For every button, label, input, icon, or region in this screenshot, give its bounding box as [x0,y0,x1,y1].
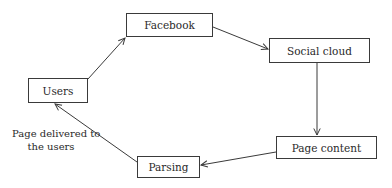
edge-label-page-delivered: Page delivered to the users [12,127,90,153]
edge-label-line-2: the users [12,140,90,153]
node-facebook-label: Facebook [144,19,195,31]
node-parsing: Parsing [137,156,200,178]
node-parsing-label: Parsing [148,161,188,173]
edge-page-content-to-parsing [201,152,276,165]
node-users-label: Users [43,85,74,97]
node-facebook: Facebook [126,13,213,37]
node-users: Users [28,78,88,103]
node-social-cloud: Social cloud [269,38,370,63]
node-social-cloud-label: Social cloud [287,45,352,57]
node-page-content-label: Page content [292,142,362,154]
edge-facebook-to-social-cloud [213,27,268,49]
node-page-content: Page content [276,136,377,159]
edge-label-line-1: Page delivered to [12,127,90,140]
diagram-canvas: Facebook Social cloud Page content Parsi… [0,0,392,188]
edge-users-to-facebook [88,38,125,79]
